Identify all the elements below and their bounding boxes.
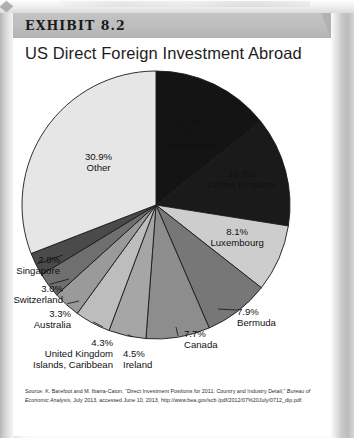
pie-slice-label: 2.8%Singapore xyxy=(16,254,60,276)
pie-chart: 14.3%TheNetherlands13.2%United Kingdom8.… xyxy=(13,65,331,383)
chart-title: US Direct Foreign Investment Abroad xyxy=(25,44,302,63)
pie-slice-label: 30.9%Other xyxy=(85,151,113,173)
pie-slice-label: 7.9%Bermuda xyxy=(237,306,277,328)
scan-top-edge xyxy=(0,0,354,13)
pie-slice-label: 3.0%Switzerland xyxy=(13,283,63,305)
source-text-part2: , July 2013, accessed June 10, 2013, htt… xyxy=(70,397,303,403)
exhibit-band-fold xyxy=(321,13,331,38)
pie-slice-label: 4.3%United KingdomIslands, Caribbean xyxy=(33,337,113,370)
exhibit-number-label: EXHIBIT 8.2 xyxy=(25,18,126,33)
scanned-page: EXHIBIT 8.2 US Direct Foreign Investment… xyxy=(0,0,354,438)
pie-slice-label: 3.3%Australia xyxy=(34,308,72,330)
exhibit-card: EXHIBIT 8.2 US Direct Foreign Investment… xyxy=(13,13,331,436)
pie-chart-svg: 14.3%TheNetherlands13.2%United Kingdom8.… xyxy=(13,65,331,383)
pie-slice-label: 7.7%Canada xyxy=(184,328,218,350)
scan-left-edge xyxy=(0,13,14,438)
source-text-part1: Source: K. Barefoot and M. Ibarra-Caton,… xyxy=(25,388,287,394)
source-note: Source: K. Barefoot and M. Ibarra-Caton,… xyxy=(25,387,321,404)
scan-right-edge xyxy=(330,13,354,438)
pie-slice-label: 4.5%Ireland xyxy=(123,348,152,370)
scan-speckle xyxy=(60,1,310,7)
